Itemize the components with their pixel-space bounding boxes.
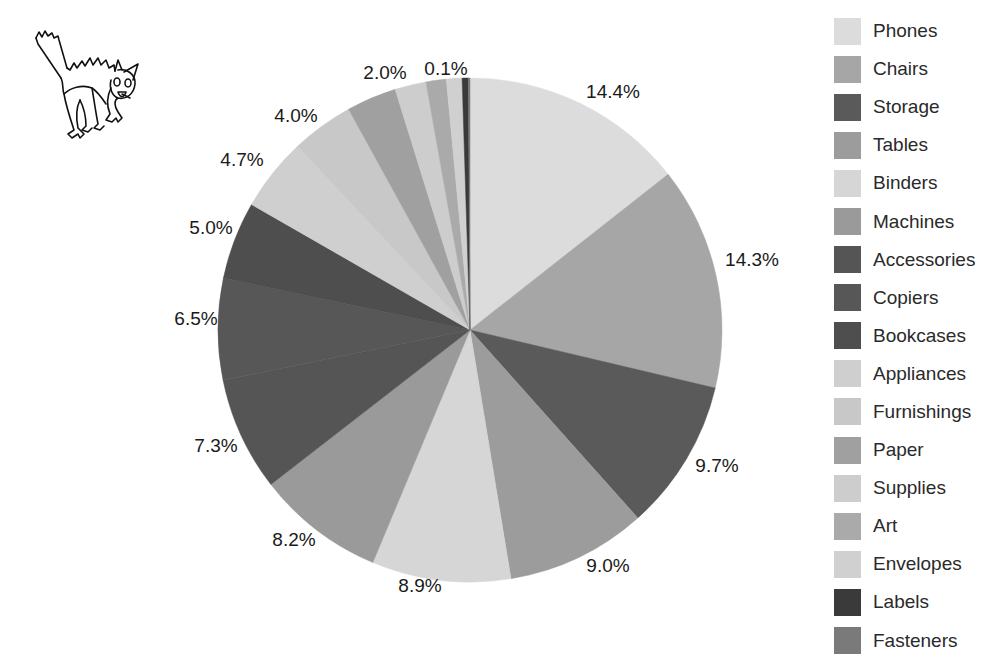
legend-swatch <box>834 551 861 578</box>
data-label-chairs: 14.3% <box>725 249 779 271</box>
pie-chart <box>0 0 820 667</box>
data-label-furnishings: 4.0% <box>274 105 317 127</box>
legend-label: Bookcases <box>873 325 966 347</box>
legend-label: Supplies <box>873 477 946 499</box>
legend-swatch <box>834 589 861 616</box>
legend-item-storage: Storage <box>834 88 1000 126</box>
legend-label: Phones <box>873 20 937 42</box>
legend-item-supplies: Supplies <box>834 469 1000 507</box>
legend-swatch <box>834 360 861 387</box>
legend-item-fasteners: Fasteners <box>834 622 1000 660</box>
data-label-binders: 8.9% <box>398 575 441 597</box>
legend-swatch <box>834 398 861 425</box>
legend-swatch <box>834 208 861 235</box>
data-label-storage: 9.7% <box>695 455 738 477</box>
legend-item-copiers: Copiers <box>834 279 1000 317</box>
data-label-fasteners: 0.1% <box>424 58 467 80</box>
legend-item-machines: Machines <box>834 202 1000 240</box>
legend-label: Paper <box>873 439 924 461</box>
legend-swatch <box>834 18 861 45</box>
chart-legend: Phones Chairs Storage Tables Binders Mac… <box>834 12 1000 660</box>
legend-label: Tables <box>873 134 928 156</box>
legend-item-furnishings: Furnishings <box>834 393 1000 431</box>
legend-label: Binders <box>873 172 937 194</box>
legend-label: Art <box>873 515 897 537</box>
data-label-bookcases: 5.0% <box>189 217 232 239</box>
data-label-tables: 9.0% <box>586 555 629 577</box>
data-label-supplies: 2.0% <box>363 62 406 84</box>
legend-label: Labels <box>873 591 929 613</box>
data-label-copiers: 6.5% <box>174 308 217 330</box>
legend-item-binders: Binders <box>834 164 1000 202</box>
pie-slices <box>218 78 722 582</box>
legend-item-paper: Paper <box>834 431 1000 469</box>
legend-swatch <box>834 132 861 159</box>
data-label-machines: 8.2% <box>272 529 315 551</box>
legend-swatch <box>834 475 861 502</box>
legend-swatch <box>834 246 861 273</box>
legend-swatch <box>834 322 861 349</box>
legend-item-phones: Phones <box>834 12 1000 50</box>
legend-label: Appliances <box>873 363 966 385</box>
legend-label: Storage <box>873 96 940 118</box>
legend-label: Machines <box>873 211 954 233</box>
legend-label: Fasteners <box>873 630 957 652</box>
data-label-appliances: 4.7% <box>220 149 263 171</box>
legend-label: Copiers <box>873 287 938 309</box>
legend-swatch <box>834 170 861 197</box>
legend-label: Chairs <box>873 58 928 80</box>
legend-item-tables: Tables <box>834 126 1000 164</box>
legend-swatch <box>834 513 861 540</box>
legend-swatch <box>834 284 861 311</box>
legend-swatch <box>834 56 861 83</box>
legend-swatch <box>834 627 861 654</box>
legend-label: Envelopes <box>873 553 962 575</box>
legend-item-appliances: Appliances <box>834 355 1000 393</box>
legend-item-bookcases: Bookcases <box>834 317 1000 355</box>
data-label-accessories: 7.3% <box>194 435 237 457</box>
legend-swatch <box>834 437 861 464</box>
legend-item-accessories: Accessories <box>834 241 1000 279</box>
data-label-phones: 14.4% <box>586 81 640 103</box>
legend-item-labels: Labels <box>834 583 1000 621</box>
legend-label: Furnishings <box>873 401 971 423</box>
legend-swatch <box>834 94 861 121</box>
legend-item-chairs: Chairs <box>834 50 1000 88</box>
legend-item-envelopes: Envelopes <box>834 545 1000 583</box>
legend-label: Accessories <box>873 249 975 271</box>
legend-item-art: Art <box>834 507 1000 545</box>
